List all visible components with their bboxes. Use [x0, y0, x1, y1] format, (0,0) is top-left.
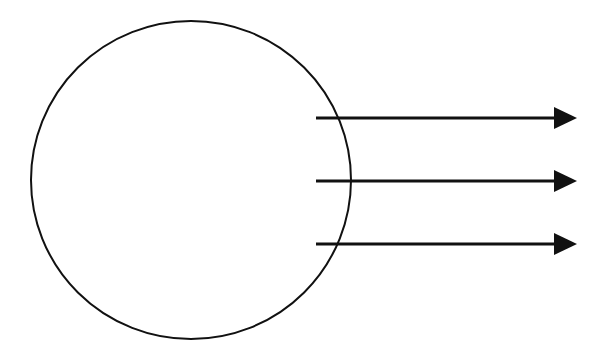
- arrow-2: [316, 170, 577, 192]
- arrowhead-icon: [554, 107, 577, 129]
- arrow-1: [316, 107, 577, 129]
- circle-shape: [31, 21, 351, 339]
- arrows-group: [316, 107, 577, 255]
- diagram-svg: [0, 0, 605, 353]
- arrowhead-icon: [554, 233, 577, 255]
- arrow-3: [316, 233, 577, 255]
- diagram-canvas: [0, 0, 605, 353]
- arrowhead-icon: [554, 170, 577, 192]
